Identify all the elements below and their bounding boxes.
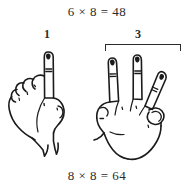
left-hand [9,52,64,156]
right-hand [94,55,166,159]
bottom-equation: 8 × 8 = 64 [0,168,194,184]
top-equation: 6 × 8 = 48 [0,4,194,20]
right-hand-count-label: 3 [135,27,141,42]
left-hand-count-label: 1 [44,27,50,42]
finger-multiplication-illustration: 6 × 8 = 48 1 3 [0,0,194,188]
hands-drawing [0,46,194,166]
